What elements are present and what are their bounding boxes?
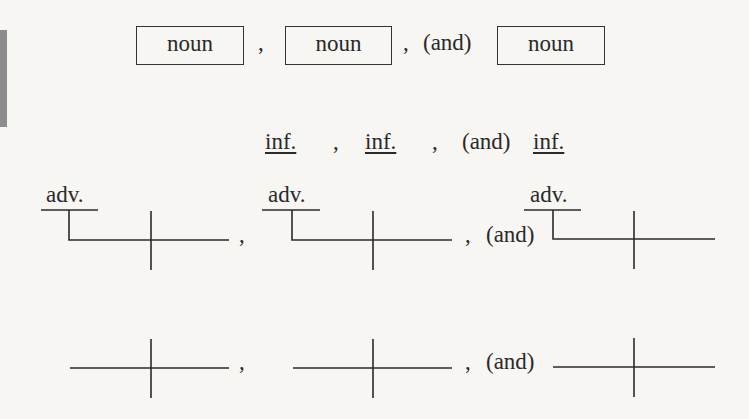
- adverb-diagram-1: [41, 210, 229, 270]
- simple-diagram-1: [70, 339, 229, 398]
- simple-diagram-2: [293, 339, 452, 398]
- simple-diagram-3: [553, 338, 715, 397]
- diagram-lines: [0, 0, 749, 419]
- adverb-diagram-3: [524, 210, 715, 269]
- adverb-diagram-2: [262, 210, 452, 270]
